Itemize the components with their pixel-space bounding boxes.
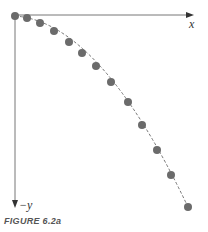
trajectory-dot <box>50 27 58 35</box>
trajectory-dot <box>11 12 19 20</box>
trajectory-path <box>15 16 188 207</box>
trajectory-dot <box>107 78 115 86</box>
trajectory-dot <box>36 19 44 27</box>
trajectory-dot <box>78 49 86 57</box>
figure-caption: FIGURE 6.2a <box>4 216 61 226</box>
trajectory-dot <box>124 98 132 106</box>
trajectory-dot <box>138 121 146 129</box>
y-axis-arrow-icon <box>12 200 18 208</box>
trajectory-dot <box>65 38 73 46</box>
x-axis-label: x <box>189 18 194 30</box>
trajectory-dot <box>167 171 175 179</box>
trajectory-dots <box>11 12 192 211</box>
trajectory-dot <box>153 146 161 154</box>
trajectory-dot <box>184 203 192 211</box>
trajectory-dot <box>23 14 31 22</box>
trajectory-dot <box>92 62 100 70</box>
y-axis-label: −y <box>19 199 32 211</box>
